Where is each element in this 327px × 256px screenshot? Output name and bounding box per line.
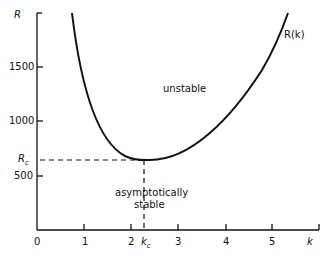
- x-tick-3: 3: [175, 237, 181, 247]
- x-axis-label: k: [307, 237, 313, 247]
- chart-plot: [0, 0, 327, 256]
- x-tick-2: 2: [128, 237, 134, 247]
- x-tick-0: 0: [34, 237, 40, 247]
- y-axis-label: R: [14, 10, 21, 20]
- stable-label-line1: asymptotically: [115, 188, 188, 198]
- kc-label: kc: [141, 237, 151, 250]
- rc-label: Rc: [18, 154, 29, 167]
- y-tick-1500: 1500: [9, 62, 34, 72]
- stable-label-line2: stable: [134, 200, 165, 210]
- x-tick-4: 4: [223, 237, 229, 247]
- unstable-label: unstable: [163, 84, 206, 94]
- curve-label: R(k): [284, 30, 305, 40]
- x-tick-5: 5: [269, 237, 275, 247]
- y-tick-500: 500: [14, 171, 33, 181]
- y-tick-1000: 1000: [9, 116, 34, 126]
- x-tick-1: 1: [82, 237, 88, 247]
